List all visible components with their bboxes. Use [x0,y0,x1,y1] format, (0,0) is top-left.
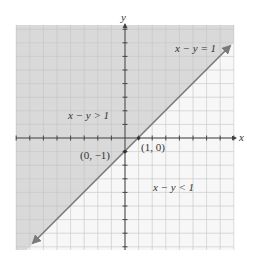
point-label-0-neg1: (0, −1) [80,149,110,162]
region-below-label: x − y < 1 [152,181,194,193]
y-axis-label: y [120,11,126,23]
point-1-0 [137,136,141,140]
x-axis-label: x [238,131,244,143]
point-0-neg1 [123,150,127,154]
region-above-label: x − y > 1 [67,109,109,121]
point-label-1-0: (1, 0) [141,141,165,154]
graph-canvas: y x x − y = 1 x − y > 1 x − y < 1 (1, 0)… [0,0,255,263]
equation-label: x − y = 1 [174,42,216,54]
